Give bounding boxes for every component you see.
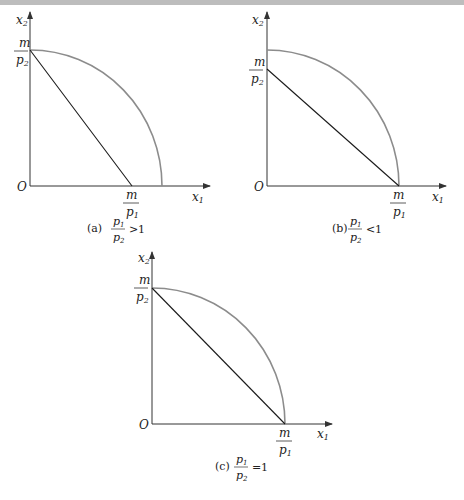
- budget-line: [30, 50, 132, 186]
- svg-text:m: m: [279, 426, 290, 440]
- svg-text:(a): (a): [87, 222, 102, 235]
- svg-text:1: 1: [375, 223, 382, 236]
- y-intercept-label: m p2: [249, 55, 265, 87]
- budget-line: [152, 288, 285, 424]
- svg-text:m: m: [126, 188, 137, 202]
- svg-text:m: m: [393, 188, 404, 202]
- y-intercept-label: m p2: [14, 36, 30, 68]
- svg-text:m: m: [254, 55, 265, 69]
- y-axis-label: x2: [252, 13, 264, 28]
- svg-text:p1: p1: [236, 453, 248, 467]
- x-intercept-label: m p1: [276, 426, 292, 458]
- svg-text:p2: p2: [113, 231, 125, 245]
- x-axis-label: x1: [317, 427, 329, 442]
- x-axis-label: x1: [192, 190, 204, 205]
- svg-text:p2: p2: [16, 53, 29, 68]
- svg-text:p2: p2: [236, 469, 248, 483]
- svg-text:m: m: [139, 273, 150, 287]
- svg-text:(b): (b): [332, 222, 348, 235]
- svg-text:p2: p2: [350, 231, 362, 245]
- panel-b: x2 x1 O m p2 m p1 (b) p1 p2 < 1: [249, 12, 446, 245]
- y-axis-label: x2: [138, 251, 150, 266]
- panel-a: x2 x1 O m p2 m p1 (a) p1 p2 > 1: [14, 12, 210, 245]
- y-axis-label: x2: [16, 13, 28, 28]
- x-axis-label: x1: [432, 190, 444, 205]
- svg-text:p1: p1: [350, 215, 362, 229]
- svg-text:=: =: [252, 461, 261, 474]
- svg-text:1: 1: [138, 223, 145, 236]
- svg-text:p1: p1: [393, 205, 406, 220]
- ppf-curve: [30, 50, 162, 186]
- origin-label: O: [17, 180, 27, 194]
- panel-c: x2 x1 O m p2 m p1 (c) p1 p2 = 1: [134, 251, 332, 483]
- origin-label: O: [139, 418, 149, 432]
- x-intercept-label: m p1: [390, 188, 406, 220]
- caption-b: (b) p1 p2 < 1: [332, 215, 382, 245]
- diagram-canvas: x2 x1 O m p2 m p1 (a) p1 p2 > 1 x2 x1 O: [0, 0, 464, 500]
- svg-text:1: 1: [261, 461, 268, 474]
- y-intercept-label: m p2: [134, 273, 150, 305]
- origin-label: O: [254, 180, 264, 194]
- svg-text:p1: p1: [279, 443, 292, 458]
- svg-text:p2: p2: [136, 290, 149, 305]
- x-intercept-label: m p1: [123, 188, 139, 220]
- svg-text:>: >: [129, 223, 138, 236]
- svg-text:p1: p1: [126, 205, 139, 220]
- svg-text:m: m: [19, 36, 30, 50]
- budget-line: [267, 69, 399, 186]
- ppf-curve: [267, 50, 399, 186]
- svg-text:<: <: [366, 223, 375, 236]
- caption-c: (c) p1 p2 = 1: [215, 453, 268, 483]
- svg-text:(c): (c): [215, 460, 230, 473]
- svg-text:p2: p2: [251, 72, 264, 87]
- svg-text:p1: p1: [113, 215, 125, 229]
